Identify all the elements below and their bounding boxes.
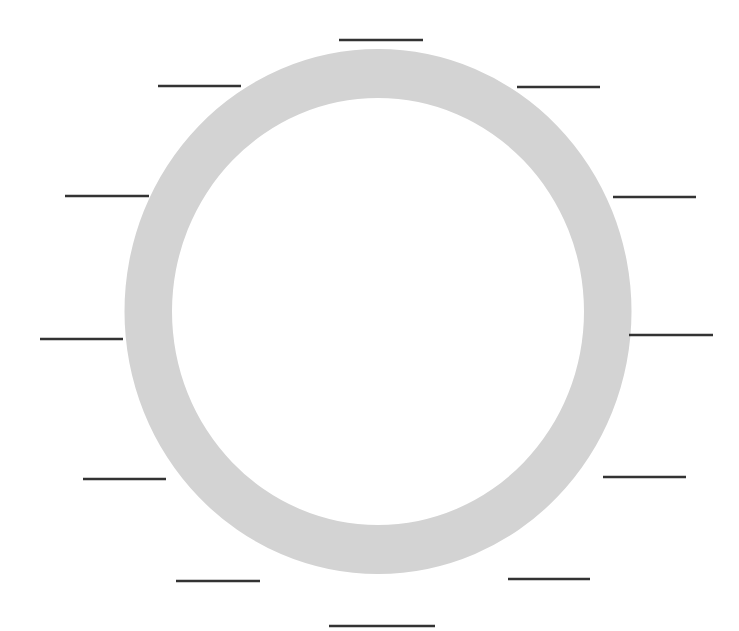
gray-ring	[125, 49, 632, 574]
ring-labeling-diagram	[0, 0, 739, 631]
diagram-canvas	[0, 0, 739, 631]
